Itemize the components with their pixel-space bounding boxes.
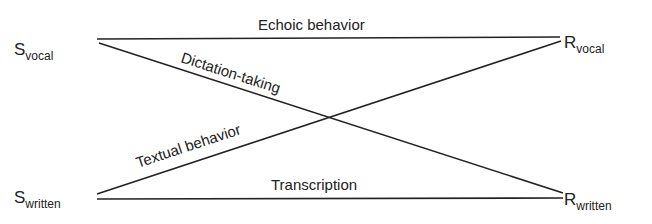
- edge-echoic: [97, 37, 560, 39]
- verbal-operant-diagram: Svocal Swritten Rvocal Rwritten Echoic b…: [0, 0, 652, 224]
- node-r-written-main: R: [564, 190, 576, 209]
- node-r-vocal-main: R: [564, 33, 576, 52]
- edge-label-echoic: Echoic behavior: [258, 16, 365, 33]
- edge-label-dictation: Dictation-taking: [179, 49, 283, 97]
- node-s-vocal-sub: vocal: [25, 49, 53, 63]
- node-s-vocal: Svocal: [14, 40, 53, 63]
- node-r-written-sub: written: [575, 199, 611, 213]
- node-r-vocal-sub: vocal: [576, 42, 604, 56]
- node-s-written-main: S: [14, 188, 25, 207]
- node-s-written-sub: written: [24, 197, 60, 211]
- diagram-canvas: Svocal Swritten Rvocal Rwritten Echoic b…: [0, 0, 652, 224]
- edge-label-transcription: Transcription: [271, 176, 357, 193]
- node-s-written: Swritten: [14, 188, 61, 211]
- edge-transcription: [97, 198, 563, 199]
- node-r-written: Rwritten: [564, 190, 612, 213]
- node-r-vocal: Rvocal: [564, 33, 604, 56]
- edge-textual: [97, 41, 561, 194]
- node-s-vocal-main: S: [14, 40, 25, 59]
